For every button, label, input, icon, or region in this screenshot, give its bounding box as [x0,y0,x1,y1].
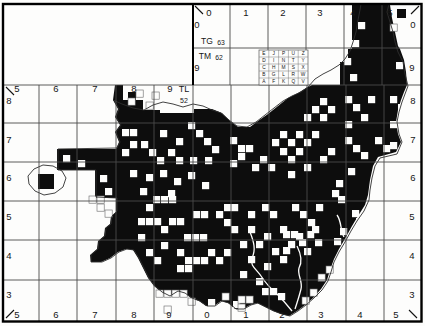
unrecorded-tetrad [164,299,171,306]
unrecorded-tetrad [130,141,137,148]
tetrad-key-letter: G [272,72,276,77]
unrecorded-tetrad [272,139,279,146]
unrecorded-tetrad [160,170,167,177]
tetrad-key-letter: L [282,72,285,77]
unrecorded-tetrad [246,145,253,152]
tetrad-key-letter: I [273,58,274,63]
grid-ref-label: 1 [243,7,248,18]
unrecorded-tetrad [352,210,359,217]
tetrad-key-letter: U [292,51,296,56]
tetrad-key-letter: F [272,79,275,84]
unrecorded-tetrad [224,204,231,211]
unrecorded-tetrad [122,149,129,156]
empty-tetrad-outline [310,289,317,296]
unrecorded-tetrad [304,139,311,146]
unrecorded-tetrad [130,170,137,177]
grid-ref-label: 3 [409,289,414,300]
tetrad-key-letter: R [292,72,296,77]
tetrad-key-letter: E [262,51,265,56]
grid-ref-label: 63 [217,39,225,46]
grid-ref-label: 4 [357,309,362,320]
unrecorded-tetrad [300,211,307,218]
grid-ref-label: 8 [131,83,136,94]
tetrad-key-letter: D [262,58,266,63]
grid-ref-label: 6 [410,172,415,183]
empty-tetrad-outline [222,293,229,300]
empty-tetrad-outline [105,210,112,217]
tetrad-key-letter: N [282,58,286,63]
tetrad-key-letter: B [262,72,265,77]
unrecorded-tetrad [156,299,163,306]
empty-tetrad-outline [238,296,245,303]
unrecorded-tetrad [157,157,164,164]
unrecorded-tetrad [224,219,231,226]
unrecorded-tetrad [291,231,298,238]
unrecorded-tetrad [63,155,70,162]
empty-tetrad-outline [246,296,253,303]
tetrad-key-letter: Z [302,51,305,56]
atlas-page: Small White EJPUZDINTYCHMSXBGLRWAFKQV012… [0,0,425,326]
unrecorded-tetrad [348,168,355,175]
unrecorded-tetrad [280,148,287,155]
unrecorded-tetrad [358,22,365,29]
unrecorded-tetrad [353,145,360,152]
unrecorded-tetrad [368,96,375,103]
unrecorded-tetrad [272,248,279,255]
grid-ref-label: 8 [410,95,415,106]
tetrad-key-letter: M [282,65,286,70]
unrecorded-tetrad [256,278,263,285]
unrecorded-tetrad [270,211,277,218]
tetrad-key-letter: P [282,51,285,56]
unrecorded-tetrad [336,180,343,187]
unrecorded-tetrad [204,138,211,145]
unrecorded-tetrad [320,114,327,121]
unrecorded-tetrad [141,141,148,148]
unrecorded-tetrad [334,238,341,245]
tetrad-key-letter: S [292,65,295,70]
unrecorded-tetrad [160,130,167,137]
unrecorded-tetrad [262,204,269,211]
grid-ref-label: 52 [180,97,188,104]
unrecorded-tetrad [205,157,212,164]
unrecorded-tetrad [130,129,137,136]
grid-ref-label: 7 [92,83,97,94]
grid-ref-label: 4 [409,250,414,261]
unrecorded-tetrad [252,164,259,171]
tetrad-key-letter: T [292,58,295,63]
tetrad-key-letter: Q [291,79,295,84]
unrecorded-tetrad [216,257,223,264]
unrecorded-tetrad [176,138,183,145]
unrecorded-tetrad [398,104,405,111]
unrecorded-tetrad [304,248,311,255]
grid-ref-label: 5 [6,211,11,222]
grid-ref-label: 4 [6,250,11,261]
unrecorded-tetrad [154,218,161,225]
recorded-tetrad [397,9,406,18]
unrecorded-tetrad [328,148,335,155]
unrecorded-tetrad [138,218,145,225]
unrecorded-tetrad [264,263,271,270]
grid-ref-label: 8 [6,95,11,106]
unrecorded-tetrad [201,211,208,218]
unrecorded-tetrad [316,204,323,211]
unrecorded-tetrad [390,121,397,128]
unrecorded-tetrad [353,104,360,111]
unrecorded-tetrad [320,98,327,105]
unrecorded-tetrad [146,174,153,181]
tetrad-key-letter: H [272,65,276,70]
grid-ref-label: 0 [206,7,211,18]
grid-ref-label: 2 [279,309,284,320]
unrecorded-tetrad [312,106,319,113]
empty-tetrad-outline [128,98,135,105]
unrecorded-tetrad [256,241,263,248]
grid-ref-label: TM [199,51,211,61]
grid-ref-label: 4 [350,7,355,18]
empty-tetrad-outline [89,196,96,203]
grid-ref-label: 0 [204,309,209,320]
unrecorded-tetrad [146,204,153,211]
grid-ref-label: 8 [131,309,136,320]
unrecorded-tetrad [231,226,238,233]
grid-ref-label: 3 [317,7,322,18]
unrecorded-tetrad [169,196,176,203]
unrecorded-tetrad [375,137,382,144]
